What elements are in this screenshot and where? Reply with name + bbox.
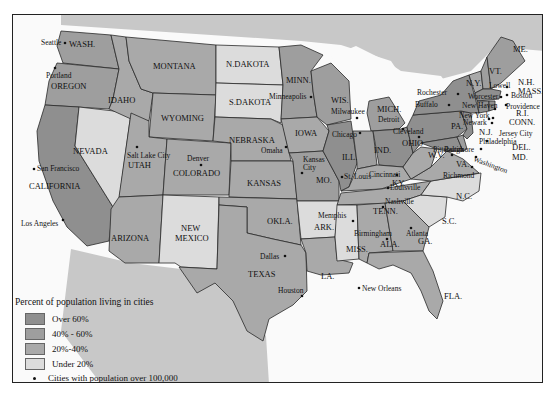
legend-swatch	[25, 343, 45, 355]
label-kansas: KANSAS	[247, 178, 281, 188]
label-mo: MO.	[316, 175, 332, 185]
map-frame: WASH. OREGON CALIFORNIA NEVADA IDAHO MON…	[12, 14, 543, 383]
label-nc: N.C.	[456, 191, 472, 201]
label-montana: MONTANA	[153, 61, 197, 71]
map-legend: Percent of population living in cities O…	[15, 297, 245, 383]
legend-swatch	[25, 328, 45, 340]
label-ohio: OHIO	[402, 138, 423, 148]
label-oregon: OREGON	[51, 81, 86, 91]
city-worcester: Worcester	[468, 92, 499, 101]
label-colorado: COLORADO	[173, 168, 220, 178]
label-md: MD.	[512, 152, 528, 162]
city-new-haven: New Haven	[462, 101, 498, 110]
city-rochester: Rochester	[417, 88, 447, 97]
city-dallas: Dallas	[260, 252, 279, 261]
legend-label: 40% - 60%	[52, 329, 93, 339]
city-cleveland: Cleveland	[393, 127, 424, 136]
legend-label: 20%-40%	[52, 344, 88, 354]
label-utah: UTAH	[128, 160, 151, 170]
label-wis: WIS.	[331, 95, 349, 105]
label-fla: FLA.	[444, 291, 462, 301]
city-st-louis: St. Louis	[344, 172, 371, 181]
city-boston: Boston	[511, 91, 533, 100]
city-louisville: Louisville	[390, 183, 421, 192]
label-ill: ILL.	[342, 152, 357, 162]
label-s-dakota: S.DAKOTA	[229, 97, 272, 107]
label-ind: IND.	[374, 145, 391, 155]
city-providence: Providence	[506, 102, 540, 111]
city-cincinnati: Cincinnati	[369, 170, 400, 179]
label-ark: ARK.	[314, 222, 334, 232]
city-new-york: New York	[459, 111, 490, 120]
label-vt: VT.	[489, 66, 502, 76]
city-seattle: Seattle	[41, 38, 62, 47]
label-nj: N.J.	[479, 127, 493, 137]
label-n-dakota: N.DAKOTA	[226, 59, 270, 69]
city-richmond: Richmond	[443, 171, 474, 180]
label-mich: MICH.	[377, 104, 401, 114]
label-sc: S.C.	[442, 216, 457, 226]
legend-cities-label: Cities with population over 100,000	[48, 373, 178, 383]
city-atlanta: Atlanta	[406, 229, 429, 238]
label-california: CALIFORNIA	[29, 181, 81, 191]
legend-swatch	[25, 313, 45, 325]
label-iowa: IOWA	[295, 128, 318, 138]
city-salt-lake-city: Salt Lake City	[127, 151, 171, 160]
label-wyoming: WYOMING	[161, 113, 204, 123]
legend-swatch	[25, 358, 45, 370]
city-houston: Houston	[278, 286, 304, 295]
city-los-angeles: Los Angeles	[21, 219, 58, 228]
city-dot-icon	[33, 377, 36, 380]
legend-item-40-60: 40% - 60%	[15, 326, 245, 341]
city-new-orleans: New Orleans	[362, 284, 401, 293]
label-okla: OKLA.	[267, 216, 293, 226]
legend-item-over-60: Over 60%	[15, 311, 245, 326]
city-nashville: Nashville	[385, 197, 414, 206]
label-wash: WASH.	[69, 39, 95, 49]
label-tenn: TENN.	[373, 206, 398, 216]
state-arizona	[109, 195, 163, 263]
label-nevada: NEVADA	[73, 146, 109, 156]
city-philadelphia: Philadelphia	[479, 137, 517, 146]
label-idaho: IDAHO	[108, 95, 135, 105]
city-denver: Denver	[187, 154, 210, 163]
city-lowell: Lowell	[489, 81, 510, 90]
legend-item-20-40: 20%-40%	[15, 341, 245, 356]
city-baltimore: Baltimore	[444, 145, 475, 154]
city-memphis: Memphis	[318, 211, 346, 220]
legend-cities: Cities with population over 100,000	[15, 373, 245, 383]
legend-label: Over 60%	[52, 314, 89, 324]
label-la: LA.	[321, 271, 334, 281]
city-jersey-city: Jersey City	[499, 129, 533, 138]
label-miss: MISS.	[346, 244, 368, 254]
label-pa: PA.	[451, 121, 463, 131]
city-chicago: Chicago	[332, 130, 357, 139]
label-ala: ALA.	[380, 239, 400, 249]
label-texas: TEXAS	[248, 269, 276, 279]
city-omaha: Omaha	[261, 146, 283, 155]
label-arizona: ARIZONA	[111, 233, 150, 243]
city-detroit: Detroit	[378, 115, 400, 124]
city-portland: Portland	[46, 71, 72, 80]
label-conn: CONN.	[509, 117, 535, 127]
label-va: VA.	[456, 159, 469, 169]
city-minneapolis: Minneapolis	[269, 92, 307, 101]
label-minn: MINN.	[286, 75, 311, 85]
city-milwaukee: Milwaukee	[331, 107, 365, 116]
label-nebraska: NEBRASKA	[229, 135, 276, 145]
state-colorado	[163, 139, 231, 195]
city-buffalo: Buffalo	[415, 100, 438, 109]
state-wash	[57, 31, 119, 69]
legend-title: Percent of population living in cities	[15, 297, 245, 307]
label-me: ME.	[513, 44, 528, 54]
city-san-francisco: San Francisco	[37, 164, 80, 173]
legend-label: Under 20%	[52, 359, 93, 369]
state-ark	[297, 201, 339, 239]
legend-item-under-20: Under 20%	[15, 356, 245, 371]
city-birmingham: Birmingham	[354, 229, 392, 238]
label-ny: N.Y.	[466, 78, 481, 88]
